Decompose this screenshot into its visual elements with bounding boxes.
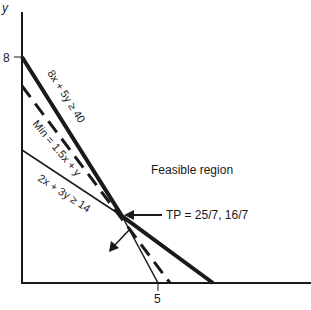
x-tick-label: 5 (154, 292, 161, 306)
lp-graph: y 8 5 8x + 5y ≥ 40 Min = 1.5x + y 2x + 3… (0, 0, 311, 310)
constraint-1-thin-segment (122, 216, 158, 283)
objective-label: Min = 1.5x + y (30, 118, 84, 179)
feasible-region-label: Feasible region (151, 163, 233, 177)
y-axis-label: y (1, 1, 9, 15)
tangent-point-label: TP = 25/7, 16/7 (166, 208, 248, 222)
direction-arrow-shaft (114, 229, 130, 246)
constraint-1-label: 8x + 5y ≥ 40 (45, 68, 87, 125)
y-tick-label: 8 (3, 51, 10, 65)
